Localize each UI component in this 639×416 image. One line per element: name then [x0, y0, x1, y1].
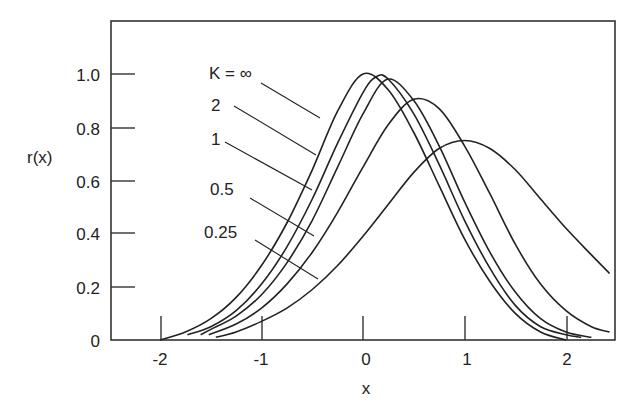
x-tick-label-1: 1	[462, 350, 471, 369]
y-tick-label-0: 0	[91, 332, 100, 351]
x-tick-label--2: -2	[152, 350, 167, 369]
leader-k-2	[234, 106, 316, 155]
label-k-1: 1	[211, 130, 220, 149]
leader-k-0.5	[250, 198, 314, 236]
curve-k-2	[187, 75, 581, 338]
y-tick-label-0.4: 0.4	[76, 225, 100, 244]
chart: 1.0 0.8 0.6 0.4 0.2 0 r(x) -2 -1 0 1 2 x	[0, 0, 639, 416]
leader-k-0.25	[255, 240, 318, 279]
y-axis: 1.0 0.8 0.6 0.4 0.2 0 r(x)	[27, 66, 135, 351]
x-axis: -2 -1 0 1 2 x	[152, 316, 571, 398]
label-k-0.25: 0.25	[204, 223, 237, 242]
y-axis-title: r(x)	[27, 148, 52, 167]
y-tick-label-0.8: 0.8	[76, 120, 100, 139]
curve-k-0.5	[209, 98, 610, 334]
curves	[160, 73, 610, 340]
label-k-2: 2	[211, 96, 220, 115]
plot-frame	[111, 21, 615, 340]
y-tick-label-0.6: 0.6	[76, 173, 100, 192]
leader-k-inf	[261, 83, 320, 118]
label-k-inf: K = ∞	[209, 64, 252, 83]
y-tick-label-0.2: 0.2	[76, 279, 100, 298]
curve-k-1	[201, 79, 592, 337]
x-axis-title: x	[362, 379, 371, 398]
x-tick-label--1: -1	[253, 350, 268, 369]
leader-k-1	[225, 142, 312, 190]
x-tick-label-2: 2	[562, 350, 571, 369]
x-tick-label-0: 0	[361, 350, 370, 369]
label-k-0.5: 0.5	[210, 180, 234, 199]
y-tick-label-1.0: 1.0	[76, 66, 100, 85]
